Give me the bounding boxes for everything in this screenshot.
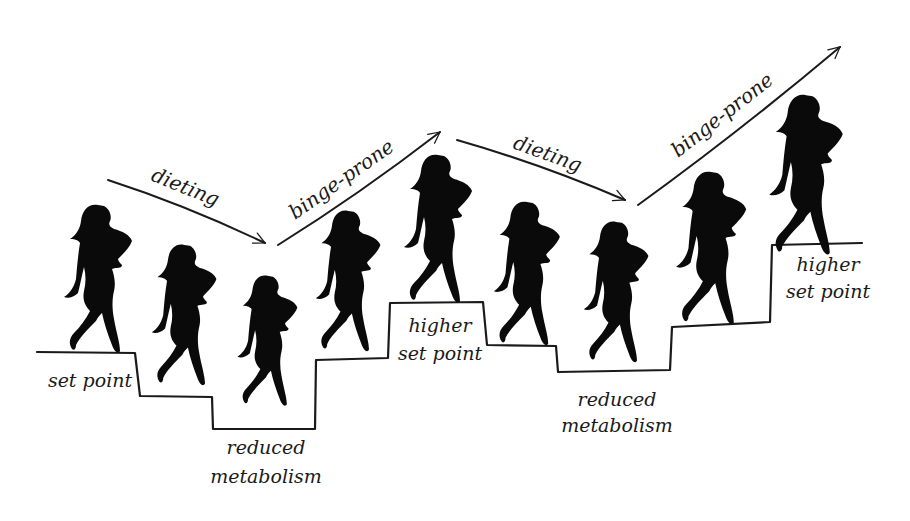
woman-silhouette-6 [494,202,560,345]
woman-silhouette-5 [404,155,472,303]
woman-silhouette-1 [64,205,132,353]
woman-silhouette-4 [316,211,381,352]
woman-silhouette-8 [676,172,746,324]
step-label-5-line-2: set point [786,280,871,302]
step-label-2-line-2: metabolism [210,465,322,487]
step-label-3-line-1: higher [408,314,473,336]
step-label-5-line-1: higher [796,253,861,275]
arrow-label-2: binge-prone [284,134,398,224]
woman-silhouette-2 [152,245,217,386]
woman-silhouette-7 [584,222,649,363]
arrow-label-4: binge-prone [666,68,777,162]
step-label-1-line-1: set point [48,369,133,391]
step-label-4-line-2: metabolism [561,414,673,436]
woman-silhouette-3 [238,275,298,405]
arrow-label-1: dieting [148,162,223,211]
step-label-2-line-1: reduced [227,436,306,458]
woman-silhouette-9 [769,95,842,255]
weight-cycle-diagram: dietingbinge-pronedietingbinge-prone set… [0,0,910,521]
step-label-4-line-1: reduced [578,388,657,410]
step-label-3-line-2: set point [398,342,483,364]
